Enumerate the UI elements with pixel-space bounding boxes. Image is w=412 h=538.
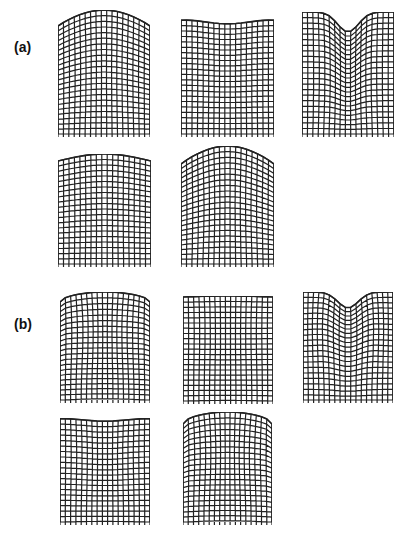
mesh-lines — [58, 10, 150, 137]
mesh-lines — [183, 412, 272, 525]
mesh-lines — [60, 419, 150, 525]
deformed-mesh-grid — [60, 418, 150, 526]
mesh-lines — [181, 146, 274, 267]
mesh-lines — [58, 154, 151, 267]
mesh-panel-b-1 — [60, 292, 150, 404]
mesh-panel-a-2 — [181, 19, 274, 138]
deformed-mesh-grid — [183, 296, 273, 405]
mesh-lines — [303, 292, 393, 403]
mesh-lines — [60, 292, 150, 403]
mesh-panel-a-5 — [181, 146, 274, 268]
mesh-panel-a-1 — [58, 10, 150, 138]
deformed-mesh-grid — [183, 412, 272, 526]
mesh-panel-a-3 — [302, 12, 394, 138]
deformed-mesh-grid — [302, 12, 394, 138]
mesh-panel-b-3 — [303, 292, 393, 404]
mesh-panel-b-2 — [183, 296, 273, 405]
panel-label-b: (b) — [14, 316, 32, 332]
panel-label-a: (a) — [14, 39, 31, 55]
deformed-mesh-grid — [181, 19, 274, 138]
mesh-lines — [183, 296, 273, 404]
deformed-mesh-grid — [58, 10, 150, 138]
mesh-panel-b-5 — [183, 412, 272, 526]
mesh-panel-b-4 — [60, 418, 150, 526]
deformed-mesh-grid — [303, 292, 393, 404]
mesh-boundary — [181, 146, 274, 264]
mesh-lines — [181, 20, 274, 137]
deformed-mesh-grid — [58, 154, 151, 268]
deformed-mesh-grid — [60, 292, 150, 404]
mesh-panel-a-4 — [58, 154, 151, 268]
deformed-mesh-grid — [181, 146, 274, 268]
